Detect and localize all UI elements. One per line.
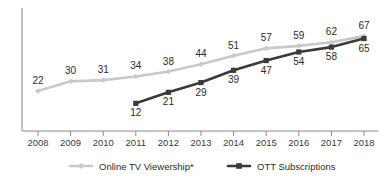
data-point-marker: [263, 46, 269, 52]
legend-label-ott-subscriptions: OTT Subscriptions: [257, 161, 336, 172]
value-label-ott-2017: 58: [326, 51, 338, 62]
data-point-marker: [198, 61, 204, 67]
data-point-marker: [100, 77, 106, 83]
data-point-marker: [231, 68, 236, 73]
data-point-marker: [296, 43, 302, 49]
x-axis-tick-marks: [38, 131, 364, 136]
data-point-marker: [133, 101, 138, 106]
value-label-ott-2012: 21: [163, 96, 175, 107]
chart-legend: Online TV Viewership*OTT Subscriptions: [70, 161, 336, 172]
value-label-online-tv-2017: 62: [326, 26, 338, 37]
x-axis-label-2015: 2015: [256, 137, 277, 148]
data-point-marker: [68, 79, 74, 85]
data-point-marker: [329, 45, 334, 50]
value-label-online-tv-2015: 57: [261, 32, 273, 43]
data-point-marker: [231, 53, 237, 59]
value-label-ott-2011: 12: [130, 107, 142, 118]
x-axis-label-2009: 2009: [60, 137, 81, 148]
chart-figure: 22303134384451575962671221293947545865 2…: [0, 0, 384, 179]
value-label-online-tv-2009: 30: [65, 65, 77, 76]
value-label-ott-2014: 39: [228, 74, 240, 85]
value-label-online-tv-2014: 51: [228, 40, 240, 51]
value-label-online-tv-2013: 44: [195, 48, 207, 59]
value-label-online-tv-2011: 34: [130, 60, 142, 71]
legend-swatch-marker-0: [78, 163, 84, 169]
value-label-ott-2016: 54: [293, 56, 305, 67]
x-axis-label-2014: 2014: [223, 137, 244, 148]
value-label-online-tv-2010: 31: [98, 64, 110, 75]
x-axis-label-2018: 2018: [353, 137, 374, 148]
value-label-ott-2015: 47: [261, 65, 273, 76]
legend-label-online-tv-viewership: Online TV Viewership*: [99, 161, 194, 172]
x-axis-label-2011: 2011: [126, 137, 146, 148]
value-label-online-tv-2018: 67: [358, 20, 370, 31]
value-label-online-tv-2016: 59: [293, 30, 305, 41]
data-point-marker: [166, 69, 172, 75]
value-label-online-tv-2012: 38: [163, 56, 175, 67]
x-axis-label-2013: 2013: [190, 137, 211, 148]
value-label-ott-2018: 65: [358, 43, 370, 54]
x-axis-label-2010: 2010: [93, 137, 114, 148]
x-axis-label-2016: 2016: [288, 137, 309, 148]
x-axis-label-2017: 2017: [321, 137, 342, 148]
data-point-marker: [264, 58, 269, 63]
value-label-online-tv-2008: 22: [32, 75, 44, 86]
data-point-marker: [329, 39, 335, 45]
data-point-marker: [166, 90, 171, 95]
value-label-ott-2013: 29: [195, 87, 207, 98]
data-point-marker: [296, 49, 301, 54]
data-point-marker: [35, 88, 41, 94]
x-axis-label-2012: 2012: [158, 137, 179, 148]
x-axis-label-2008: 2008: [27, 137, 48, 148]
legend-swatch-marker-1: [236, 163, 242, 169]
data-value-labels: 22303134384451575962671221293947545865: [32, 20, 370, 118]
line-chart-plot: 22303134384451575962671221293947545865 2…: [0, 0, 384, 179]
data-point-marker: [198, 80, 203, 85]
data-point-marker: [361, 36, 366, 41]
x-axis-tick-labels: 2008200920102011201220132014201520162017…: [27, 137, 374, 148]
data-point-marker: [133, 74, 139, 80]
